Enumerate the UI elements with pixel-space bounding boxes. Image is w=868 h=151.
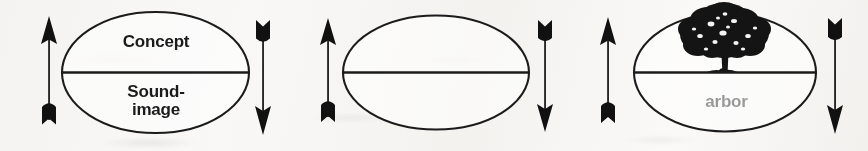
signifier-label: Sound- image	[62, 83, 250, 118]
arrow-up-icon	[600, 17, 616, 123]
panel-1-graphics	[0, 0, 290, 151]
arrow-up-icon	[320, 18, 336, 122]
panel-2-graphics	[290, 0, 580, 151]
arrow-down-icon	[537, 20, 553, 132]
saussure-sign-figure: Concept Sound- image “tree” arbor	[0, 0, 868, 151]
sign-panel-concept-soundimage: Concept Sound- image	[0, 0, 290, 151]
sign-panel-tree-arbor: “tree” arbor	[290, 0, 580, 151]
sign-panel-treeimage-arbor: arbor	[578, 0, 868, 151]
panel-3-graphics	[578, 0, 868, 151]
signified-label: Concept	[62, 33, 250, 51]
arrow-down-icon	[255, 20, 271, 135]
arrow-down-icon	[827, 18, 843, 134]
arrow-up-icon	[41, 16, 57, 125]
